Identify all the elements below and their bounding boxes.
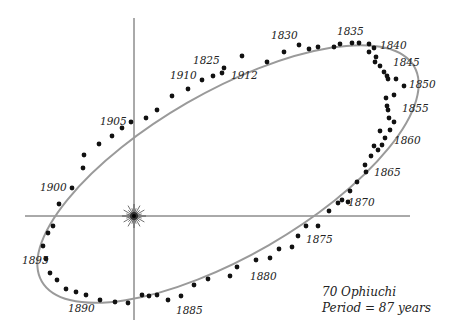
observation-dot [110, 134, 115, 139]
observation-points [41, 41, 407, 306]
observation-dot [372, 46, 377, 51]
observation-dot [383, 136, 388, 141]
observation-dot [340, 198, 345, 203]
observation-dot [369, 154, 374, 159]
observation-dot [384, 96, 389, 101]
observation-dot [192, 283, 197, 288]
observation-dot [41, 244, 46, 249]
observation-dot [296, 234, 301, 239]
observation-dot [55, 278, 60, 283]
year-label: 1870 [348, 196, 375, 208]
observation-dot [129, 120, 134, 125]
observation-dot [113, 300, 118, 305]
observation-dot [144, 116, 149, 121]
observation-dot [228, 274, 233, 279]
observation-dot [74, 290, 79, 295]
observation-dot [46, 231, 51, 236]
observation-dot [364, 170, 369, 175]
year-label: 1875 [306, 233, 333, 245]
observation-dot [126, 301, 131, 306]
observation-dot [372, 144, 377, 149]
observation-dot [297, 43, 302, 48]
observation-dot [374, 55, 379, 60]
observation-dot [82, 153, 87, 158]
year-label: 1912 [231, 69, 258, 81]
observation-dot [387, 116, 392, 121]
observation-dot [70, 186, 75, 191]
observation-dot [386, 108, 391, 113]
observation-dot [378, 129, 383, 134]
observation-dot [97, 142, 102, 147]
observation-dot [348, 189, 353, 194]
year-label: 1855 [402, 102, 429, 114]
observation-dot [200, 78, 205, 83]
observation-dot [51, 224, 56, 229]
observation-dot [316, 224, 321, 229]
observation-dot [155, 293, 160, 298]
observation-dot [166, 298, 171, 303]
observation-dot [57, 202, 62, 207]
observation-dot [386, 77, 391, 82]
year-label: 1895 [22, 254, 49, 266]
observation-dot [186, 87, 191, 92]
observation-dot [385, 104, 390, 109]
observation-dot [307, 47, 312, 52]
year-label: 1885 [176, 304, 203, 316]
observation-dot [367, 42, 372, 47]
observation-dot [376, 148, 381, 153]
primary-star-icon [122, 204, 146, 228]
caption-star-name: 70 Ophiuchi [322, 285, 396, 299]
observation-dot [140, 293, 145, 298]
year-labels: 1825183018351840184518501855186018651870… [22, 25, 436, 316]
observation-dot [394, 77, 399, 82]
observation-dot [373, 60, 378, 65]
observation-dot [357, 41, 362, 46]
observation-dot [304, 224, 309, 229]
year-label: 1880 [250, 270, 277, 282]
observation-dot [84, 293, 89, 298]
observation-dot [64, 287, 69, 292]
observation-dot [402, 84, 407, 89]
caption-period: Period = 87 years [321, 301, 431, 315]
year-label: 1850 [409, 78, 436, 90]
observation-dot [363, 163, 368, 168]
observation-dot [327, 209, 332, 214]
observation-dot [367, 50, 372, 55]
observation-dot [355, 180, 360, 185]
observation-dot [265, 60, 270, 65]
observation-dot [338, 42, 343, 47]
year-label: 1830 [271, 29, 298, 41]
observation-dot [254, 258, 259, 263]
observation-dot [277, 247, 282, 252]
observation-dot [350, 41, 355, 46]
year-label: 1840 [380, 39, 407, 51]
observation-dot [388, 128, 393, 133]
observation-dot [392, 120, 397, 125]
year-label: 1845 [393, 56, 420, 68]
observation-dot [336, 201, 341, 206]
observation-dot [282, 50, 287, 55]
observation-dot [211, 74, 216, 79]
observation-dot [392, 93, 397, 98]
observation-dot [332, 45, 337, 50]
observation-dot [316, 45, 321, 50]
observation-dot [155, 108, 160, 113]
observation-dot [48, 271, 53, 276]
observation-dot [382, 70, 387, 75]
observation-dot [147, 294, 152, 299]
year-label: 1865 [374, 166, 401, 178]
observation-dot [220, 71, 225, 76]
observation-dot [235, 265, 240, 270]
year-label: 1860 [394, 134, 421, 146]
observation-dot [240, 54, 245, 59]
observation-dot [206, 277, 211, 282]
observation-dot [222, 66, 227, 71]
year-label: 1900 [40, 181, 67, 193]
observation-dot [268, 256, 273, 261]
observation-dot [81, 166, 86, 171]
observation-dot [290, 245, 295, 250]
year-label: 1890 [68, 302, 95, 314]
year-label: 1905 [100, 115, 127, 127]
observation-dot [179, 294, 184, 299]
year-label: 1825 [193, 54, 220, 66]
